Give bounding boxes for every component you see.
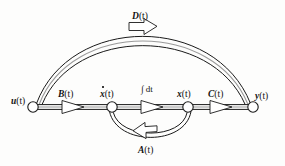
edge-A-arc: [110, 112, 192, 139]
edge-label-integrator: ∫ dt: [141, 85, 153, 94]
node-label-x: x(t): [177, 90, 191, 100]
node-x[interactable]: [183, 102, 193, 112]
node-label-xdot: x(t): [100, 90, 114, 100]
edge-label-A-arg: (t): [144, 145, 153, 155]
edge-B-arrowhead: [62, 101, 84, 114]
edge-label-C: C(t): [208, 90, 223, 100]
node-y[interactable]: [248, 102, 258, 112]
caption-strip: [0, 157, 285, 166]
node-label-y: y(t): [255, 92, 268, 102]
edge-integrator: [117, 101, 183, 114]
edge-C: [193, 101, 248, 114]
xdot-overdot: [102, 86, 104, 88]
edge-label-D-arg: (t): [139, 11, 148, 21]
edge-label-D-symbol: D: [132, 11, 139, 21]
node-label-xdot-arg: (t): [105, 89, 114, 99]
edge-C-arrowhead: [210, 101, 232, 114]
node-label-u: u(t): [11, 97, 25, 107]
node-u[interactable]: [28, 102, 38, 112]
edge-label-B-arg: (t): [64, 89, 73, 99]
edge-B: [38, 101, 107, 114]
node-label-xdot-symbol: x: [100, 89, 105, 99]
edge-label-A: A(t): [138, 146, 153, 156]
diagram-canvas: u(t) x(t) x(t) y(t) B(t) ∫ dt C(t) D(t) …: [0, 0, 285, 166]
node-label-x-arg: (t): [182, 89, 191, 99]
signal-flow-graph: [0, 0, 285, 166]
edge-label-integrator-operator: ∫ dt: [141, 84, 153, 94]
node-label-u-arg: (t): [16, 96, 25, 106]
node-label-y-arg: (t): [259, 91, 268, 101]
edge-label-B: B(t): [58, 90, 73, 100]
edge-label-C-arg: (t): [214, 89, 223, 99]
edge-integrator-arrowhead: [141, 101, 163, 114]
node-xdot[interactable]: [107, 102, 117, 112]
edge-label-D: D(t): [132, 12, 148, 22]
